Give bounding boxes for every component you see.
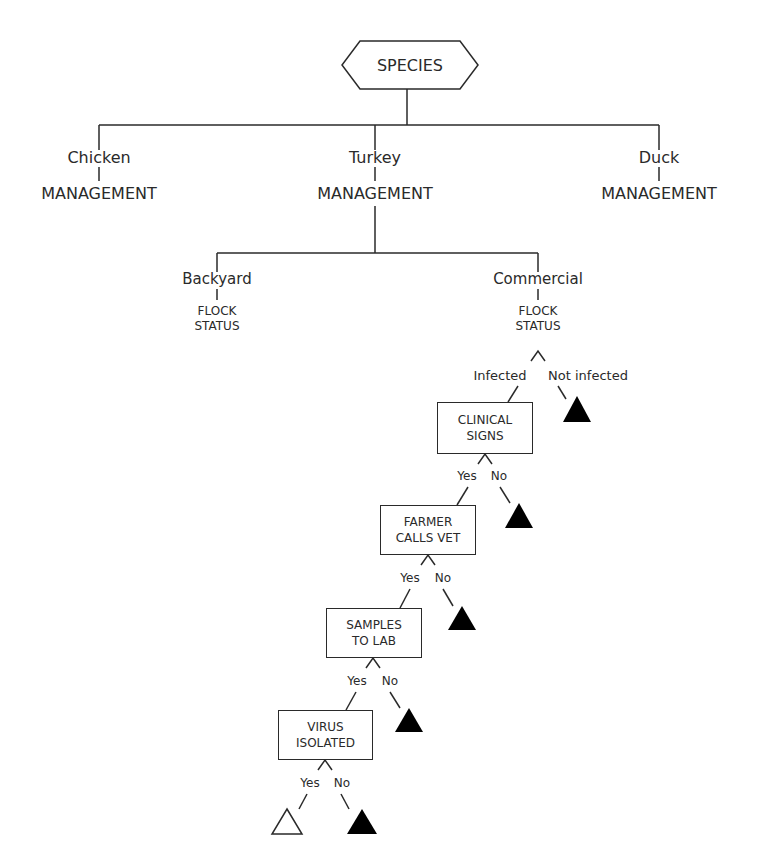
branch-infected: Infected (473, 369, 526, 382)
farmer-yes: Yes (400, 572, 419, 584)
management-backyard: Backyard (182, 272, 251, 287)
tree-connectors (0, 0, 768, 868)
branch-not-infected: Not infected (548, 369, 628, 382)
node-clinical-signs: CLINICALSIGNS (437, 402, 533, 454)
detected-triangle (272, 809, 302, 834)
backyard-flock-status: FLOCK STATUS (194, 304, 239, 334)
species-turkey: Turkey (349, 150, 401, 166)
not-detected-triangle-2 (505, 503, 533, 528)
not-detected-triangle-4 (395, 708, 423, 732)
not-detected-triangle-3 (448, 606, 476, 630)
turkey-management: MANAGEMENT (317, 186, 433, 202)
farmer-no: No (435, 572, 451, 584)
clinical-yes: Yes (457, 470, 476, 482)
management-commercial: Commercial (493, 272, 583, 287)
species-duck: Duck (639, 150, 680, 166)
clinical-no: No (491, 470, 507, 482)
species-chicken: Chicken (67, 150, 130, 166)
not-detected-triangle-5 (347, 809, 377, 834)
root-species-label: SPECIES (342, 41, 478, 89)
commercial-flock-status: FLOCK STATUS (515, 304, 560, 334)
chicken-management: MANAGEMENT (41, 186, 157, 202)
virus-yes: Yes (300, 777, 319, 789)
samples-yes: Yes (347, 675, 366, 687)
not-detected-triangle-1 (563, 396, 591, 422)
node-samples-to-lab: SAMPLESTO LAB (326, 608, 422, 658)
virus-no: No (334, 777, 350, 789)
duck-management: MANAGEMENT (601, 186, 717, 202)
node-virus-isolated: VIRUSISOLATED (278, 710, 373, 760)
node-farmer-calls-vet: FARMERCALLS VET (380, 505, 476, 555)
samples-no: No (382, 675, 398, 687)
